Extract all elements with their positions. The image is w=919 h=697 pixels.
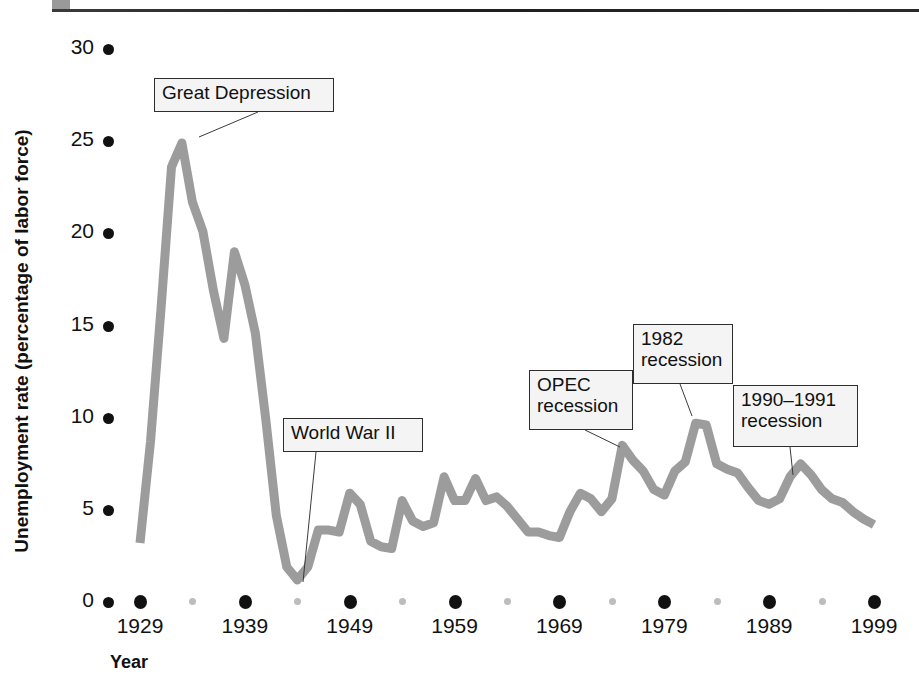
y-tick-label-25: 25 (58, 127, 94, 151)
y-tick-dot-15 (103, 321, 114, 332)
callout-great-depression: Great Depression (154, 78, 334, 112)
x-tick-dot-1939 (239, 595, 252, 609)
callout-recession-1990-1991: 1990–1991 recession (733, 385, 858, 447)
y-tick-label-0: 0 (58, 588, 94, 612)
x-tick-label-1989: 1989 (729, 614, 809, 638)
x-tick-label-1959: 1959 (415, 614, 495, 638)
x-tick-label-1929: 1929 (100, 614, 180, 638)
leader-line-opec-recession (585, 430, 620, 447)
x-minor-tick-dot-1964 (504, 598, 511, 605)
x-tick-dot-1999 (868, 595, 881, 609)
y-tick-label-20: 20 (58, 219, 94, 243)
y-tick-label-30: 30 (58, 35, 94, 59)
x-tick-dot-1929 (134, 595, 147, 609)
x-minor-tick-dot-1994 (819, 598, 826, 605)
y-tick-label-10: 10 (58, 404, 94, 428)
x-minor-tick-dot-1984 (714, 598, 721, 605)
y-tick-dot-5 (103, 505, 114, 516)
y-tick-dot-30 (103, 44, 114, 55)
callout-world-war-ii: World War II (283, 418, 423, 452)
y-tick-dot-0 (103, 597, 114, 608)
chart-canvas (0, 0, 919, 697)
x-tick-label-1939: 1939 (205, 614, 285, 638)
x-tick-label-1949: 1949 (310, 614, 390, 638)
callout-recession-1982: 1982 recession (633, 324, 733, 384)
x-tick-dot-1949 (344, 595, 357, 609)
y-tick-dot-10 (103, 413, 114, 424)
y-tick-label-15: 15 (58, 312, 94, 336)
unemployment-rate-line (140, 143, 874, 580)
x-tick-label-1979: 1979 (624, 614, 704, 638)
leader-line-great-depression (199, 112, 258, 137)
x-tick-label-1969: 1969 (519, 614, 599, 638)
callout-opec-recession: OPEC recession (529, 370, 633, 430)
x-tick-dot-1959 (449, 595, 462, 609)
x-axis-title: Year (110, 652, 148, 673)
unemployment-line (140, 143, 874, 580)
leader-line-recession-1982 (680, 384, 692, 416)
x-tick-label-1999: 1999 (834, 614, 914, 638)
y-tick-label-5: 5 (58, 496, 94, 520)
x-minor-tick-dot-1974 (609, 598, 616, 605)
